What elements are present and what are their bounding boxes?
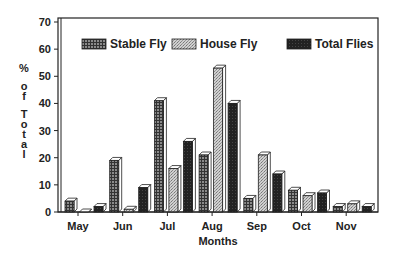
bar-house-fly-nov xyxy=(348,201,360,212)
y-tick-label: 10 xyxy=(39,179,51,191)
y-tick-label: 0 xyxy=(45,206,51,218)
bar-house-fly-aug xyxy=(214,65,226,212)
x-tick-label: Nov xyxy=(336,220,358,232)
bar-total-flies-aug xyxy=(228,100,240,212)
x-tick-label: Sep xyxy=(247,220,267,232)
svg-text:%: % xyxy=(19,62,29,74)
x-tick-label: Oct xyxy=(292,220,311,232)
bar-stable-fly-aug xyxy=(199,152,211,212)
bar-house-fly-oct xyxy=(303,193,315,212)
y-tick-label: 60 xyxy=(39,43,51,55)
legend-label: House Fly xyxy=(200,37,258,51)
y-axis-ticks: 010203040506070 xyxy=(39,16,58,218)
bar-house-fly-sep xyxy=(258,152,270,212)
svg-text:f: f xyxy=(22,90,26,102)
bar-stable-fly-may xyxy=(65,198,77,212)
y-tick-label: 30 xyxy=(39,125,51,137)
bar-stable-fly-jun xyxy=(110,157,122,212)
legend-item-stable-fly: Stable Fly xyxy=(82,37,167,51)
legend-label: Total Flies xyxy=(315,37,374,51)
bar-stable-fly-nov xyxy=(333,204,345,212)
bar-house-fly-jul xyxy=(169,166,181,212)
bar-house-fly-jun xyxy=(124,206,136,212)
legend-item-house-fly: House Fly xyxy=(172,37,258,51)
x-axis-title: Months xyxy=(198,235,237,247)
bar-total-flies-jun xyxy=(139,185,151,212)
svg-text:l: l xyxy=(22,148,25,160)
x-tick-label: Jul xyxy=(159,220,175,232)
x-tick-label: Jun xyxy=(113,220,133,232)
bar-total-flies-oct xyxy=(318,190,330,212)
legend-swatch xyxy=(82,39,106,49)
y-axis-title: %ofTotal xyxy=(19,62,29,160)
y-tick-label: 70 xyxy=(39,16,51,28)
y-tick-label: 40 xyxy=(39,97,51,109)
legend-swatch xyxy=(172,39,196,49)
legend-item-total-flies: Total Flies xyxy=(287,37,374,51)
bar-stable-fly-jul xyxy=(154,98,166,212)
bar-total-flies-sep xyxy=(273,171,285,212)
x-tick-label: Aug xyxy=(201,220,222,232)
bar-total-flies-may xyxy=(94,204,106,212)
bar-total-flies-jul xyxy=(183,138,195,212)
x-axis-ticks: MayJunJulAugSepOctNov xyxy=(67,212,357,232)
bar-stable-fly-sep xyxy=(244,195,256,212)
y-tick-label: 20 xyxy=(39,152,51,164)
legend: Stable FlyHouse FlyTotal Flies xyxy=(82,37,374,51)
x-tick-label: May xyxy=(67,220,89,232)
legend-swatch xyxy=(287,39,311,49)
bar-stable-fly-oct xyxy=(289,187,301,212)
bar-total-flies-nov xyxy=(362,204,374,212)
y-tick-label: 50 xyxy=(39,70,51,82)
legend-label: Stable Fly xyxy=(110,37,167,51)
bar-chart: %ofTotal 010203040506070 MayJunJulAugSep… xyxy=(0,0,397,259)
